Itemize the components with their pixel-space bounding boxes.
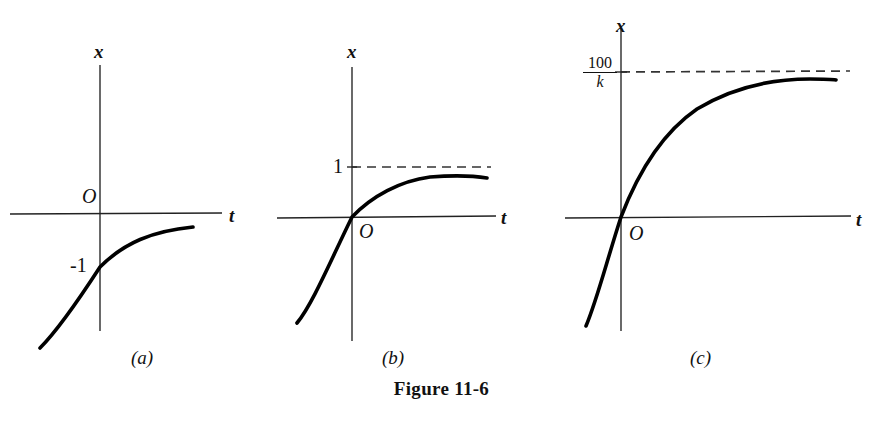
- panel-c-fraction-denominator: k: [583, 73, 617, 90]
- chart-panel-b: x t O 1 (b): [260, 0, 520, 422]
- panel-c-asymptote-dashed-line: [621, 71, 850, 72]
- panel-c-caption: (c): [690, 348, 711, 367]
- panel-a-t-axis-label: t: [229, 206, 234, 225]
- chart-panel-a: x t O -1 (a): [0, 0, 300, 422]
- panel-c-horizontal-axis: [565, 216, 851, 218]
- panel-c-tick-label-fraction: 100 k: [583, 55, 617, 91]
- panel-b-horizontal-axis: [277, 216, 496, 218]
- panel-c-origin-label: O: [629, 223, 643, 243]
- panel-a-tick-label-minus-one: -1: [70, 255, 87, 275]
- panel-a-x-axis-label: x: [94, 42, 104, 61]
- panel-b-t-axis-label: t: [501, 208, 506, 227]
- panel-a-curve: [40, 227, 193, 348]
- panel-a-caption: (a): [131, 348, 153, 367]
- panel-c-curve: [586, 79, 836, 326]
- panel-c-x-axis-label: x: [616, 16, 626, 35]
- figure-11-6: x t O -1 (a) x t O 1 (b): [0, 0, 883, 422]
- panel-b-tick-label-one: 1: [333, 156, 343, 176]
- chart-panel-c: x t O 100 k (c): [555, 0, 883, 422]
- panel-b-x-axis-label: x: [347, 42, 357, 61]
- figure-caption: Figure 11-6: [0, 378, 883, 400]
- panel-a-origin-label: O: [82, 186, 96, 206]
- panel-b-caption: (b): [382, 348, 404, 367]
- panel-c-fraction-numerator: 100: [583, 55, 617, 73]
- panel-a-horizontal-axis: [10, 213, 222, 214]
- panel-c-t-axis-label: t: [856, 210, 861, 229]
- panel-b-curve: [297, 176, 487, 323]
- panel-b-origin-label: O: [359, 221, 373, 241]
